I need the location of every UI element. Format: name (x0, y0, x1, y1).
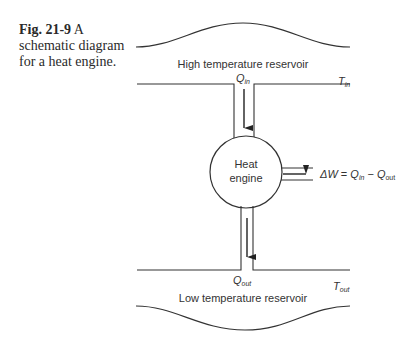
t-out-label: Tout (333, 280, 351, 293)
work-equation: ΔW = Qin − Qout (319, 168, 395, 181)
low-reservoir-boundary (136, 306, 350, 330)
heat-engine-diagram: High temperature reservoir Tin Qin Heat … (0, 0, 417, 348)
t-in-label: Tin (338, 75, 350, 88)
low-reservoir-wall (137, 206, 350, 270)
engine-label-line2: engine (229, 172, 262, 184)
q-in-label: Qin (236, 72, 250, 85)
high-reservoir-boundary (136, 23, 350, 47)
low-reservoir-label: Low temperature reservoir (179, 292, 308, 304)
engine-label-line1: Heat (234, 158, 257, 170)
q-out-label: Qout (233, 274, 252, 287)
high-reservoir-label: High temperature reservoir (178, 58, 309, 70)
